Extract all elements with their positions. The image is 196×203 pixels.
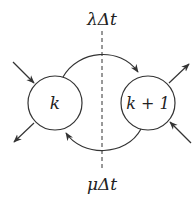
- arrow-into-k: [13, 62, 34, 83]
- bottom-rate-label: μΔt: [87, 174, 117, 194]
- state-k-label: k: [50, 93, 60, 113]
- arrow-out-of-k1: [169, 64, 189, 83]
- birth-death-diagram: λΔt μΔt k k + 1: [0, 0, 196, 203]
- arrow-into-k1: [170, 122, 191, 143]
- arrow-birth-arc: [63, 54, 138, 77]
- arrow-out-of-k: [14, 123, 34, 142]
- state-k1-label: k + 1: [126, 94, 169, 113]
- top-rate-label: λΔt: [86, 9, 117, 29]
- arrow-death-arc: [66, 129, 141, 151]
